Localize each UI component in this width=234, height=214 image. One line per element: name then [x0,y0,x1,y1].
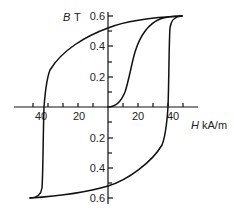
y-axis-symbol: B [63,11,70,23]
hysteresis-chart: 40 20 20 40 0.6 0.4 0.2 0.2 0.4 0.6 B T … [0,0,234,214]
y-tick-label-0.4: 0.4 [90,40,105,52]
x-tick-label-pos40: 40 [167,110,179,122]
y-axis-unit: T [74,11,81,23]
x-tick-labels: 40 20 20 40 [35,110,179,122]
x-axis-symbol: H [191,119,199,131]
y-tick-label-0.2: 0.2 [90,71,105,83]
y-axis [108,12,113,204]
y-tick-label-neg0.4: 0.4 [90,162,105,174]
x-tick-label-neg20: 20 [73,110,85,122]
x-tick-label-pos20: 20 [132,110,144,122]
y-axis-title: B T [63,11,81,23]
x-axis-unit: kA/m [202,119,227,131]
y-tick-label-neg0.2: 0.2 [90,132,105,144]
y-tick-label-neg0.6: 0.6 [90,192,105,204]
y-tick-label-0.6: 0.6 [90,10,105,22]
x-axis-title: H kA/m [191,119,227,131]
x-tick-label-neg40: 40 [35,110,47,122]
x-axis [14,103,198,107]
initial-magnetization-curve [108,16,182,107]
